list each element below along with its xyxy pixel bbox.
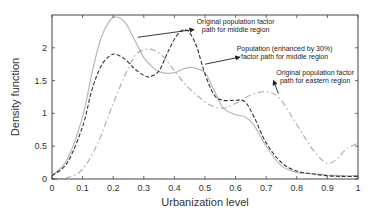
annotation-arrow (274, 81, 279, 94)
x-tick-label: 0.3 (138, 183, 151, 193)
y-tick-label: 0.5 (34, 141, 47, 151)
axis-ticks: 00.10.20.30.40.50.60.70.80.9100.511.52 (34, 15, 360, 193)
annotations: Original population factorpath for middl… (138, 18, 355, 94)
x-tick-label: 0.8 (291, 183, 304, 193)
x-tick-label: 0.4 (168, 183, 181, 193)
x-tick-label: 0.6 (229, 183, 242, 193)
x-tick-label: 0.7 (260, 183, 273, 193)
annotation-1: Original population factorpath for middl… (138, 18, 275, 38)
x-axis-label: Urbanization level (161, 196, 248, 208)
x-tick-label: 0.5 (199, 183, 212, 193)
annotation-text: Population (enhanced by 30%) (237, 45, 333, 53)
annotation-arrow (138, 30, 194, 38)
y-axis-label: Density function (9, 58, 21, 136)
annotation-text: Original population factor (276, 69, 354, 77)
annotation-3: Original population factorpath for easte… (274, 69, 355, 94)
series-line-solid: Original population factor path for midd… (52, 17, 358, 176)
density-chart: Original population factor path for midd… (0, 0, 376, 217)
annotation-arrow (205, 57, 240, 64)
annotation-text: Original population factor (197, 18, 275, 26)
y-tick-label: 1.5 (34, 76, 47, 86)
y-tick-label: 1 (42, 108, 47, 118)
y-tick-label: 0 (42, 174, 47, 184)
x-tick-label: 0.1 (76, 183, 89, 193)
y-tick-label: 2 (42, 43, 47, 53)
x-tick-label: 0 (49, 183, 54, 193)
plot-frame (52, 15, 358, 179)
annotation-text: path for middle region (202, 26, 270, 34)
series-layer: Original population factor path for midd… (52, 17, 358, 179)
x-tick-label: 1 (355, 183, 360, 193)
x-tick-label: 0.2 (107, 183, 120, 193)
annotation-text: path for eastern region (280, 77, 351, 85)
x-tick-label: 0.9 (321, 183, 334, 193)
annotation-2: Population (enhanced by 30%)factor path … (205, 45, 332, 64)
annotation-text: factor path for middle region (241, 53, 328, 61)
